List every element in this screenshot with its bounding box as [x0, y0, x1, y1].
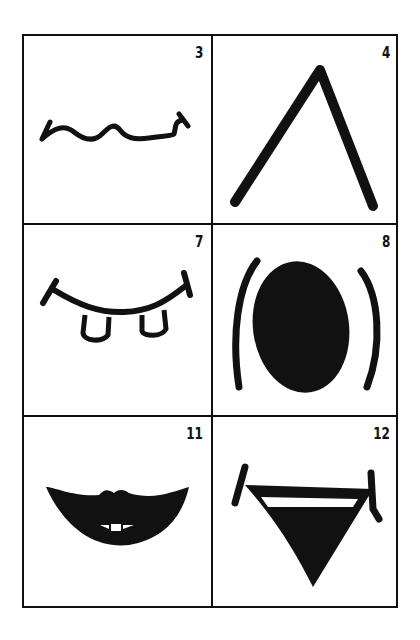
- smile-with-teeth-icon: [24, 225, 211, 415]
- panel-4: 4: [213, 36, 398, 223]
- panel-11: 11: [24, 417, 211, 606]
- filled-lips-icon: [24, 417, 211, 606]
- inverted-v-mouth-icon: [213, 36, 398, 223]
- wavy-line-mouth-icon: [24, 36, 211, 223]
- panel-3: 3: [24, 36, 211, 223]
- mouth-shapes-grid: 3 4 7 8 11: [22, 34, 398, 608]
- panel-8: 8: [213, 225, 398, 415]
- panel-7: 7: [24, 225, 211, 415]
- panel-12: 12: [213, 417, 398, 606]
- open-oval-mouth-icon: [213, 225, 398, 415]
- triangular-mouth-icon: [213, 417, 398, 606]
